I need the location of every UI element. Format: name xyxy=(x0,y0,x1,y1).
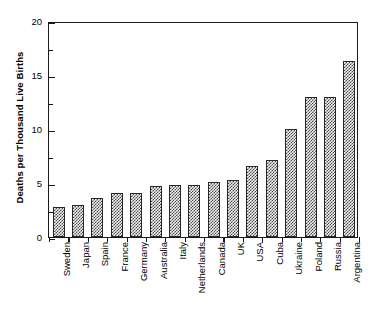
bar xyxy=(130,193,142,237)
x-axis-tick-label: Germany xyxy=(139,242,149,322)
x-axis-tick-label: France xyxy=(120,242,130,322)
x-axis-tick-label: Netherlands xyxy=(197,242,207,322)
bar xyxy=(188,185,200,237)
x-axis-tick-label: Sweden xyxy=(62,242,72,322)
bar xyxy=(169,185,181,237)
bar xyxy=(72,205,84,237)
bar xyxy=(150,186,162,237)
x-axis-tick-label: Canada xyxy=(217,242,227,322)
x-axis-tick-label: Cuba xyxy=(275,242,285,322)
chart-figure: Deaths per Thousand Live Births 05101520… xyxy=(0,0,373,323)
x-axis-tick-labels: SwedenJapanSpainFranceGermanyAustraliaIt… xyxy=(48,242,358,323)
y-axis-tick-label: 5 xyxy=(20,179,42,189)
x-axis-tick-label: Argentina xyxy=(352,242,362,322)
x-axis-tick-label: Ukraine xyxy=(294,242,304,322)
x-axis-tick-label: Poland xyxy=(314,242,324,322)
x-axis-tick-label: Australia xyxy=(159,242,169,322)
x-axis-tick-label: Spain xyxy=(100,242,110,322)
y-axis-tick-label: 10 xyxy=(20,125,42,135)
bar xyxy=(343,61,355,237)
y-axis-tick-labels: 05101520 xyxy=(14,0,42,323)
bar xyxy=(246,166,258,237)
y-axis-tick-label: 0 xyxy=(20,233,42,243)
bar-series xyxy=(49,23,357,237)
x-axis-tick-label: Japan xyxy=(81,242,91,322)
x-axis-tick-label: UK xyxy=(236,242,246,322)
x-axis-tick-label: Russia xyxy=(333,242,343,322)
bar xyxy=(53,207,65,237)
y-axis-tick-label: 15 xyxy=(20,71,42,81)
bar xyxy=(266,160,278,237)
x-axis-tick-label: USA xyxy=(255,242,265,322)
x-axis-tick-label: Italy xyxy=(178,242,188,322)
y-axis-tick-label: 20 xyxy=(20,17,42,27)
plot-area xyxy=(48,22,358,238)
bar xyxy=(111,193,123,237)
bar xyxy=(91,198,103,237)
bar xyxy=(208,182,220,237)
bar xyxy=(305,97,317,237)
bar xyxy=(285,129,297,237)
bar xyxy=(324,97,336,237)
bar xyxy=(227,180,239,237)
